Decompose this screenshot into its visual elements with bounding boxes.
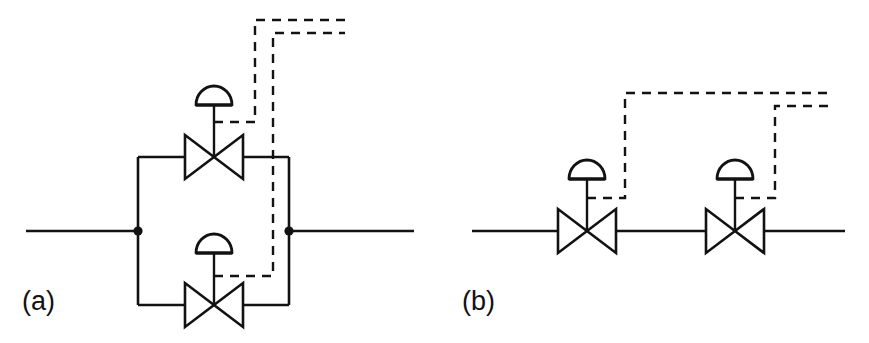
valve-body-right-triangle <box>214 283 243 327</box>
valve-body-right-triangle <box>214 135 243 179</box>
figure-root: (a) <box>0 0 869 343</box>
diaphragm-actuator-icon <box>569 160 605 179</box>
right-control-valve-b <box>706 160 764 253</box>
upper-control-valve-a <box>185 86 243 179</box>
signal-line-right-valve-b <box>735 106 828 198</box>
signal-line-upper-valve-a <box>214 20 345 122</box>
valve-body-left-triangle <box>706 209 735 253</box>
valve-body-left-triangle <box>185 283 214 327</box>
junction-dot-outlet-a <box>284 226 293 235</box>
valve-body-right-triangle <box>735 209 764 253</box>
diaphragm-actuator-icon <box>717 160 753 179</box>
valve-body-right-triangle <box>587 209 616 253</box>
valve-body-left-triangle <box>558 209 587 253</box>
panel-a: (a) <box>22 20 414 327</box>
valve-configuration-diagram: (a) <box>0 0 869 343</box>
panel-b: (b) <box>462 93 845 316</box>
panel-label-a: (a) <box>22 286 55 316</box>
left-control-valve-b <box>558 160 616 253</box>
junction-dot-inlet-a <box>133 226 142 235</box>
diaphragm-actuator-icon <box>196 234 232 253</box>
diaphragm-actuator-icon <box>196 86 232 105</box>
signal-line-left-valve-b <box>587 93 828 198</box>
panel-label-b: (b) <box>462 286 495 316</box>
lower-control-valve-a <box>185 234 243 327</box>
valve-body-left-triangle <box>185 135 214 179</box>
